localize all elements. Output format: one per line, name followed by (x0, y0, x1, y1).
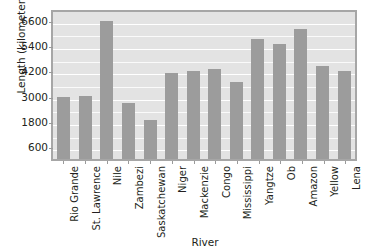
bar (100, 21, 113, 161)
x-tick-mark (280, 161, 281, 164)
x-axis-tick-labels: Rio GrandeSt. LawrenceNileZambeziSaskatc… (53, 163, 357, 235)
x-tick-mark (259, 161, 260, 164)
x-tick-cell: Nile (101, 163, 114, 235)
x-tick-mark (345, 161, 346, 164)
x-tick-mark (194, 161, 195, 164)
bar (57, 97, 70, 161)
x-tick-cell: Saskatchewan (144, 163, 157, 235)
x-tick-mark (63, 161, 64, 164)
bar (338, 71, 351, 161)
x-tick-mark (172, 161, 173, 164)
y-tick-label: 3000 (18, 92, 48, 103)
y-tick-mark (49, 72, 53, 73)
bar (251, 39, 264, 161)
bar (273, 44, 286, 161)
y-tick-label: 6600 (18, 16, 48, 27)
y-tick-label: 5400 (18, 41, 48, 52)
x-tick-mark (150, 161, 151, 164)
bar (122, 103, 135, 161)
x-tick-cell: Lena (339, 163, 352, 235)
x-tick-cell: Yangtze (253, 163, 266, 235)
bar (294, 29, 307, 161)
x-tick-cell: Yellow (318, 163, 331, 235)
x-tick-cell: Mississippi (231, 163, 244, 235)
y-tick-mark (49, 98, 53, 99)
x-tick-label: Lena (351, 166, 362, 190)
y-tick-mark (49, 22, 53, 23)
x-tick-mark (324, 161, 325, 164)
bar (316, 66, 329, 161)
x-axis-line (51, 159, 357, 161)
x-tick-mark (85, 161, 86, 164)
x-tick-cell: Amazon (296, 163, 309, 235)
y-tick-mark (49, 123, 53, 124)
x-tick-mark (302, 161, 303, 164)
bar (144, 120, 157, 161)
bar (208, 69, 221, 161)
y-tick-label: 1800 (18, 117, 48, 128)
y-tick-mark (49, 148, 53, 149)
bar (187, 71, 200, 161)
y-axis-tick-labels: 60018003000420054006600 (18, 10, 48, 161)
x-tick-cell: Ob (274, 163, 287, 235)
bar-series (53, 12, 355, 161)
x-axis-title: River (53, 236, 357, 248)
x-tick-cell: Rio Grande (57, 163, 70, 235)
bar (230, 82, 243, 161)
bar (165, 73, 178, 161)
x-tick-mark (215, 161, 216, 164)
x-tick-cell: Congo (209, 163, 222, 235)
y-tick-mark (49, 47, 53, 48)
x-tick-cell: Mackenzie (188, 163, 201, 235)
plot-area (53, 10, 357, 161)
y-tick-label: 600 (18, 142, 48, 153)
bar-chart: Length (kilometers) 60018003000420054006… (0, 0, 366, 252)
x-tick-mark (107, 161, 108, 164)
x-tick-mark (128, 161, 129, 164)
x-tick-cell: St. Lawrence (79, 163, 92, 235)
x-tick-mark (237, 161, 238, 164)
x-tick-cell: Niger (166, 163, 179, 235)
x-tick-cell: Zambezi (122, 163, 135, 235)
bar (79, 96, 92, 161)
y-tick-label: 4200 (18, 66, 48, 77)
